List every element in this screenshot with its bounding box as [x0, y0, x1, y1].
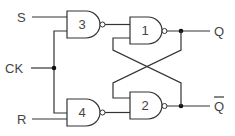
- label-ck: CK: [5, 61, 23, 76]
- sr-flip-flop-diagram: S CK R 3 4 1 Q 2 Q: [0, 0, 235, 136]
- junction-dot-ck: [52, 66, 57, 71]
- label-s: S: [17, 10, 26, 25]
- inverter-bubble-4: [100, 110, 105, 115]
- gate-label-4: 4: [78, 105, 85, 120]
- inverter-bubble-2: [162, 104, 167, 109]
- circuit-svg: S CK R 3 4 1 Q 2 Q: [0, 0, 235, 136]
- gate-label-3: 3: [78, 17, 85, 32]
- label-q: Q: [214, 24, 224, 39]
- wire-ck-bus: [54, 31, 67, 113]
- inverter-bubble-1: [162, 29, 167, 34]
- gate-label-2: 2: [141, 98, 148, 113]
- gate-label-1: 1: [141, 23, 148, 38]
- label-r: R: [17, 112, 26, 127]
- inverter-bubble-3: [100, 22, 105, 27]
- label-qbar: Q: [214, 99, 224, 114]
